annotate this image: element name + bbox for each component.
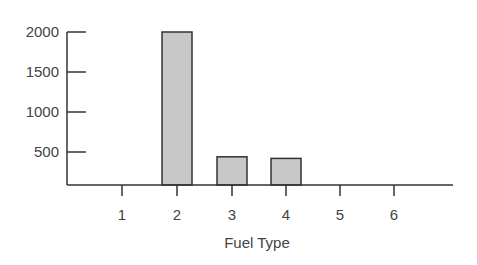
bar-chart: 500100015002000 123456 Fuel Type: [0, 0, 477, 265]
y-axis: 500100015002000: [26, 23, 86, 185]
x-tick-label: 1: [118, 206, 126, 223]
x-tick-label: 2: [173, 206, 181, 223]
y-tick-label: 1500: [26, 63, 59, 80]
bar-3: [217, 157, 247, 185]
x-tick-label: 6: [390, 206, 398, 223]
bar-4: [271, 158, 301, 185]
x-tick-label: 4: [282, 206, 290, 223]
y-tick-label: 500: [34, 143, 59, 160]
bar-2: [162, 32, 192, 185]
y-tick-label: 1000: [26, 103, 59, 120]
x-tick-label: 5: [336, 206, 344, 223]
x-axis: 123456: [67, 185, 453, 223]
x-tick-label: 3: [228, 206, 236, 223]
bars: [162, 32, 301, 185]
x-axis-title: Fuel Type: [224, 234, 290, 251]
y-tick-label: 2000: [26, 23, 59, 40]
